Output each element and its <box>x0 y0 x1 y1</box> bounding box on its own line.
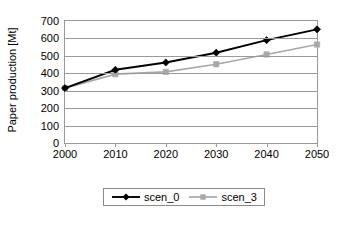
x-axis-tick-mark <box>317 143 318 147</box>
legend-swatch-diamond-icon <box>111 191 141 203</box>
gridline <box>65 126 317 127</box>
y-axis-tick-labels: 7006005004003002001000 <box>26 0 59 226</box>
chart-legend: scen_0scen_3 <box>103 188 265 206</box>
x-axis-tick-label: 2000 <box>53 148 77 160</box>
y-axis-title: Paper production [Mt] <box>0 0 24 160</box>
y-axis-tick-label: 600 <box>26 32 59 44</box>
gridline <box>65 73 317 74</box>
legend-entry-scen_0[interactable]: scen_0 <box>111 191 179 203</box>
x-axis-tick-labels: 200020102020203020402050 <box>0 148 340 166</box>
gridline <box>65 38 317 39</box>
x-axis-tick-label: 2030 <box>204 148 228 160</box>
legend-entry-scen_3[interactable]: scen_3 <box>188 191 256 203</box>
legend-label: scen_3 <box>221 191 256 203</box>
gridline <box>65 108 317 109</box>
plot-area <box>64 20 318 144</box>
y-axis-tick-label: 700 <box>26 15 59 27</box>
legend-swatch-square-icon <box>188 191 218 203</box>
y-axis-title-text: Paper production [Mt] <box>6 27 18 132</box>
data-point-marker-scen_0 <box>162 59 169 66</box>
gridline <box>65 91 317 92</box>
data-series-layer <box>65 21 317 143</box>
x-axis-tick-mark <box>115 143 116 147</box>
legend-label: scen_0 <box>144 191 179 203</box>
y-axis-tick-label: 100 <box>26 120 59 132</box>
y-axis-tick-label: 300 <box>26 85 59 97</box>
x-axis-tick-label: 2040 <box>254 148 278 160</box>
data-point-marker-scen_3 <box>314 42 319 47</box>
y-axis-tick-label: 200 <box>26 102 59 114</box>
series-line-scen_3 <box>65 45 317 89</box>
x-axis-tick-label: 2010 <box>103 148 127 160</box>
chart-figure: Paper production [Mt] 700600500400300200… <box>0 0 340 226</box>
y-axis-tick-label: 400 <box>26 67 59 79</box>
data-point-marker-scen_3 <box>214 62 219 67</box>
x-axis-tick-label: 2020 <box>154 148 178 160</box>
x-axis-tick-mark <box>267 143 268 147</box>
y-axis-tick-label: 500 <box>26 50 59 62</box>
data-point-marker-scen_0 <box>313 26 320 33</box>
x-axis-tick-mark <box>216 143 217 147</box>
x-axis-tick-mark <box>65 143 66 147</box>
x-axis-tick-label: 2050 <box>305 148 329 160</box>
gridline <box>65 56 317 57</box>
x-axis-tick-mark <box>166 143 167 147</box>
